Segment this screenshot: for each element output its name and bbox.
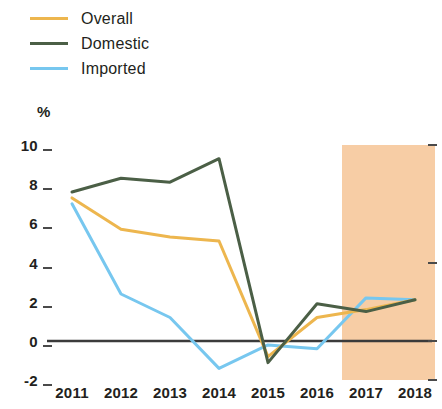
x-tick-label-2014: 2014 [202, 384, 236, 401]
y-tick-mark-right [428, 144, 437, 146]
x-tick-label-2017: 2017 [349, 384, 383, 401]
y-tick-mark [43, 188, 52, 190]
x-tick-label-2011: 2011 [55, 384, 88, 401]
x-tick-label-2016: 2016 [300, 384, 334, 401]
y-tick-label: 2 [8, 293, 38, 310]
y-tick-label: -2 [8, 372, 38, 389]
x-tick-label-2013: 2013 [153, 384, 187, 401]
y-tick-mark [43, 267, 52, 269]
series-line-domestic [72, 159, 415, 363]
x-tick-label-2018: 2018 [398, 384, 432, 401]
chart-figure: Overall Domestic Imported % 1086420-2 20… [0, 0, 442, 409]
y-tick-label: 10 [8, 137, 38, 154]
plot-area [0, 0, 442, 409]
y-tick-mark-right [428, 262, 437, 264]
y-tick-label: 8 [8, 176, 38, 193]
y-tick-label: 0 [8, 333, 38, 350]
x-tick-label-2015: 2015 [251, 384, 285, 401]
y-tick-label: 4 [8, 254, 38, 271]
x-tick-label-2012: 2012 [104, 384, 138, 401]
y-tick-mark [43, 345, 52, 347]
y-tick-mark [43, 227, 52, 229]
y-tick-mark [43, 384, 52, 386]
y-tick-label: 6 [8, 215, 38, 232]
y-tick-mark-right [428, 379, 437, 381]
series-line-overall [72, 198, 415, 357]
y-tick-mark-right [428, 340, 437, 342]
y-tick-mark [43, 306, 52, 308]
y-tick-mark [43, 149, 52, 151]
